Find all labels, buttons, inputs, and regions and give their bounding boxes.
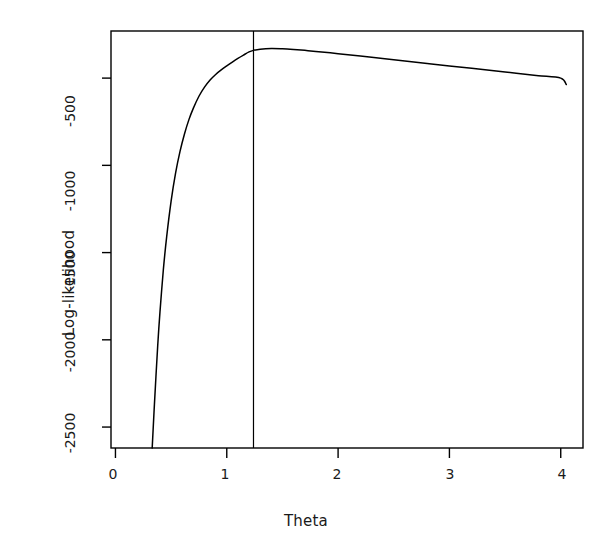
- x-axis-title: Theta: [0, 512, 612, 530]
- plot-canvas: [0, 0, 612, 557]
- x-axis-ticks: [115, 448, 560, 458]
- chart-figure: 0 1 2 3 4 -500 -1000 -1500 -2000 -2500 T…: [0, 0, 612, 557]
- loglikelihood-curve: [152, 48, 566, 448]
- y-axis-title: Log-likelihood: [60, 183, 78, 383]
- x-tick-label-2: 2: [317, 466, 357, 482]
- y-tick-label-minus2500: -2500: [62, 403, 78, 463]
- y-tick-label-minus500: -500: [62, 81, 78, 141]
- plot-frame: [111, 31, 583, 448]
- x-tick-label-0: 0: [93, 466, 133, 482]
- x-tick-label-1: 1: [205, 466, 245, 482]
- x-tick-label-3: 3: [430, 466, 470, 482]
- x-tick-label-4: 4: [542, 466, 582, 482]
- y-axis-ticks: [102, 78, 111, 427]
